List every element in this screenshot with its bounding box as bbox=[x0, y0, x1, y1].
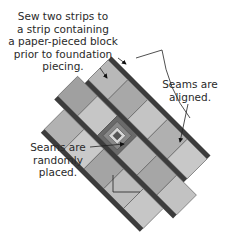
top-note-line-3: a paper-pieced block bbox=[4, 35, 122, 48]
random-note-line-2: randomly bbox=[28, 154, 88, 167]
aligned-note-label: Seams are aligned. bbox=[160, 78, 220, 103]
random-note-label: Seams are randomly placed. bbox=[28, 141, 88, 179]
top-note-line-4: prior to foundation bbox=[4, 48, 122, 61]
top-note-line-2: a strip containing bbox=[4, 23, 122, 36]
random-note-line-1: Seams are bbox=[28, 141, 88, 154]
aligned-note-line-1: Seams are bbox=[160, 78, 220, 91]
aligned-note-line-2: aligned. bbox=[160, 91, 220, 104]
random-note-line-3: placed. bbox=[28, 166, 88, 179]
top-note-line-5: piecing. bbox=[4, 60, 122, 73]
top-note-line-1: Sew two strips to bbox=[4, 10, 122, 23]
top-note-label: Sew two strips to a strip containing a p… bbox=[4, 10, 122, 73]
